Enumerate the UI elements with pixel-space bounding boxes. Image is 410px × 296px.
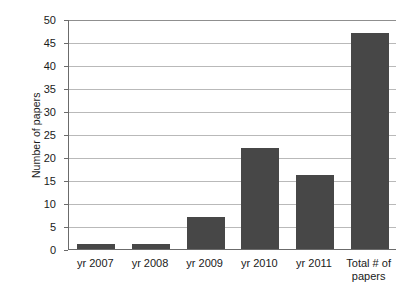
y-axis-tick-label: 0 [16, 245, 56, 256]
y-axis-tick-label: 15 [16, 176, 56, 187]
bar [241, 148, 279, 249]
y-axis-tick-label: 5 [16, 222, 56, 233]
x-axis-tick-label-line: Total # of [341, 257, 396, 270]
x-axis-tick-label-line: papers [341, 270, 396, 283]
plot-area [68, 20, 396, 250]
x-axis-tick-label: yr 2011 [287, 257, 342, 270]
y-axis-tick-label: 45 [16, 38, 56, 49]
y-axis-tick-mark [64, 250, 68, 251]
y-axis-tick-label: 35 [16, 84, 56, 95]
bar [132, 244, 170, 249]
x-axis-tick-label-line: yr 2009 [177, 257, 232, 270]
x-axis-tick-label-line: yr 2011 [287, 257, 342, 270]
x-axis-tick-label: yr 2009 [177, 257, 232, 270]
gridline [69, 43, 396, 44]
bar [77, 244, 115, 249]
gridline [69, 135, 396, 136]
bar [351, 33, 389, 249]
x-axis-tick-label-line: yr 2008 [123, 257, 178, 270]
y-axis-tick-label: 25 [16, 130, 56, 141]
gridline [69, 227, 396, 228]
x-axis-tick-label: yr 2007 [68, 257, 123, 270]
x-axis-tick-label: yr 2010 [232, 257, 287, 270]
gridline [69, 89, 396, 90]
x-axis-tick-label: yr 2008 [123, 257, 178, 270]
gridline [69, 66, 396, 67]
bar [187, 217, 225, 249]
gridline [69, 20, 396, 21]
gridline [69, 204, 396, 205]
x-axis-tick-label-line: yr 2007 [68, 257, 123, 270]
y-axis-tick-label: 20 [16, 153, 56, 164]
gridline [69, 181, 396, 182]
gridline [69, 112, 396, 113]
x-axis-tick-label-line: yr 2010 [232, 257, 287, 270]
y-axis-tick-label: 30 [16, 107, 56, 118]
y-axis-tick-label: 50 [16, 15, 56, 26]
gridline [69, 158, 396, 159]
bar [296, 175, 334, 249]
x-axis-tick-label: Total # ofpapers [341, 257, 396, 283]
y-axis-tick-label: 10 [16, 199, 56, 210]
y-axis-tick-label: 40 [16, 61, 56, 72]
bar-chart: Number of papers 05101520253035404550 yr… [0, 0, 410, 296]
